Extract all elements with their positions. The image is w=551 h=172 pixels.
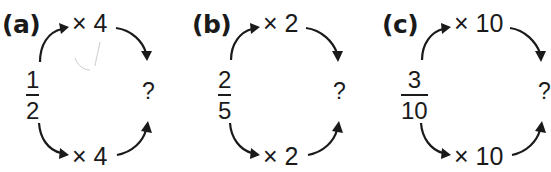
arrow-top-right-icon bbox=[116, 28, 152, 61]
arrow-bottom-left-icon bbox=[421, 123, 451, 159]
arrow-top-left-icon bbox=[231, 23, 260, 60]
arrow-bottom-right-icon bbox=[512, 121, 546, 155]
arrow-top-right-icon bbox=[306, 28, 343, 62]
arrow-bottom-left-icon bbox=[39, 123, 69, 159]
arrow-top-left-icon bbox=[40, 23, 69, 62]
arrows bbox=[365, 0, 545, 172]
arrow-bottom-left-icon bbox=[230, 123, 260, 159]
panel-c: (c) × 10 3 10 ? × 10 bbox=[365, 0, 545, 172]
arrow-top-right-icon bbox=[510, 28, 546, 62]
panel-b: (b) × 2 2 5 ? × 2 bbox=[180, 0, 365, 172]
arrow-top-left-icon bbox=[422, 23, 451, 60]
panel-a: (a) × 4 1 2 ? × 4 bbox=[0, 0, 180, 172]
arrows bbox=[0, 0, 180, 172]
arrows bbox=[180, 0, 365, 172]
arrow-bottom-right-icon bbox=[308, 121, 343, 155]
arrow-bottom-right-icon bbox=[117, 121, 152, 155]
